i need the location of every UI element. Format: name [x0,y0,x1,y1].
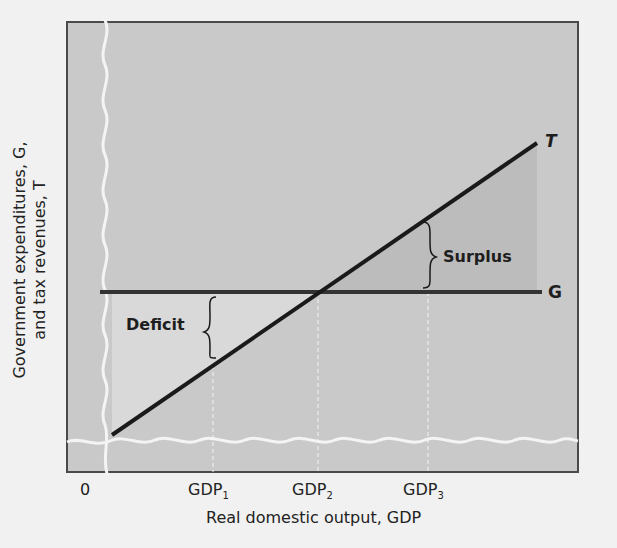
surplus-label: Surplus [443,247,512,266]
x-tick-gdp1-sub: 1 [222,490,228,501]
x-tick-origin: 0 [80,480,90,499]
y-axis-label-line2: and tax revenues, T [30,141,50,378]
x-tick-gdp3-base: GDP [403,480,437,499]
chart-canvas [0,0,617,548]
y-axis-label-line1: Government expenditures, G, [10,141,30,378]
x-tick-gdp2-sub: 2 [326,490,332,501]
y-axis-label: Government expenditures, G, and tax reve… [10,141,50,378]
x-tick-gdp1-base: GDP [188,480,222,499]
x-tick-gdp3: GDP3 [403,480,444,501]
g-line-label: G [548,282,562,302]
t-line-label: T [545,131,557,151]
deficit-label: Deficit [126,315,185,334]
x-tick-gdp3-sub: 3 [437,490,443,501]
x-tick-gdp1: GDP1 [188,480,229,501]
x-axis-label: Real domestic output, GDP [206,508,421,527]
x-tick-gdp2: GDP2 [292,480,333,501]
x-tick-gdp2-base: GDP [292,480,326,499]
